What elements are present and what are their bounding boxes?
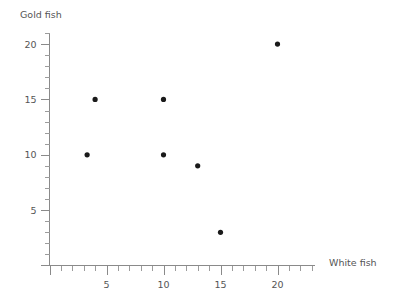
data-point [218, 230, 223, 235]
y-axis-tick-labels: 5101520 [24, 39, 36, 216]
data-points-layer [85, 42, 281, 235]
x-tick-label: 10 [157, 279, 169, 290]
chart-canvas: Gold fish White fish 5101520 5101520 [0, 0, 395, 301]
x-axis-title: White fish [329, 257, 377, 268]
data-point [195, 163, 200, 168]
x-axis-tick-labels: 5101520 [103, 279, 283, 290]
y-tick-label: 15 [24, 94, 36, 105]
data-point [85, 152, 90, 157]
y-tick-label: 20 [24, 39, 36, 50]
y-axis-ticks [41, 34, 50, 255]
data-point [275, 42, 280, 47]
data-point [161, 152, 166, 157]
x-tick-label: 15 [214, 279, 226, 290]
x-axis-ticks [50, 266, 312, 275]
scatter-plot-figure: Gold fish White fish 5101520 5101520 [0, 0, 395, 301]
data-point [93, 97, 98, 102]
data-point [161, 97, 166, 102]
x-tick-label: 5 [103, 279, 109, 290]
x-tick-label: 20 [271, 279, 283, 290]
y-tick-label: 10 [24, 149, 36, 160]
y-axis-title: Gold fish [20, 9, 62, 20]
y-tick-label: 5 [30, 205, 36, 216]
